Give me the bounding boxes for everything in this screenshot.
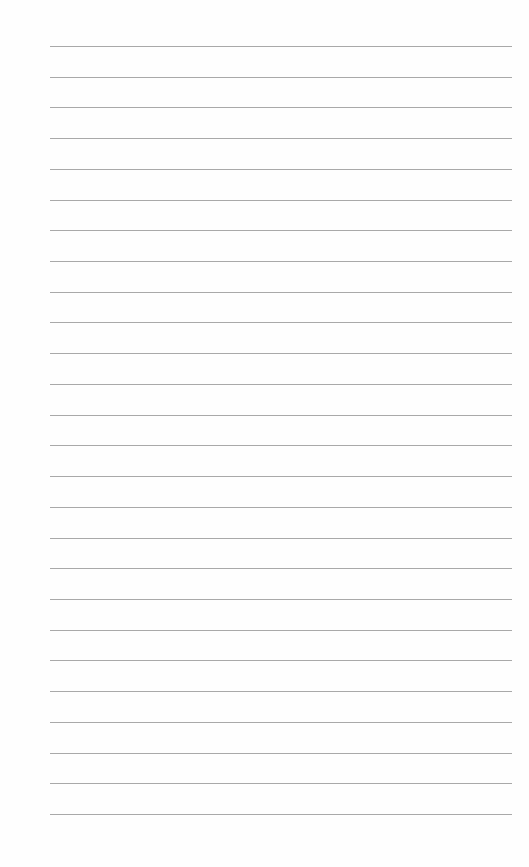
ruled-line [50,353,512,354]
ruled-line [50,507,512,508]
ruled-line [50,415,512,416]
ruled-line [50,384,512,385]
ruled-line [50,476,512,477]
ruled-line [50,691,512,692]
ruled-line [50,261,512,262]
ruled-line [50,568,512,569]
ruled-line [50,630,512,631]
ruled-line [50,753,512,754]
ruled-page [0,0,529,867]
ruled-line [50,660,512,661]
ruled-line [50,169,512,170]
ruled-line [50,200,512,201]
ruled-line [50,722,512,723]
ruled-line [50,107,512,108]
ruled-line [50,46,512,47]
ruled-line [50,292,512,293]
ruled-line [50,138,512,139]
ruled-line [50,77,512,78]
ruled-line [50,322,512,323]
ruled-lines [0,0,529,867]
ruled-line [50,814,512,815]
ruled-line [50,230,512,231]
ruled-line [50,538,512,539]
ruled-line [50,599,512,600]
ruled-line [50,783,512,784]
ruled-line [50,445,512,446]
